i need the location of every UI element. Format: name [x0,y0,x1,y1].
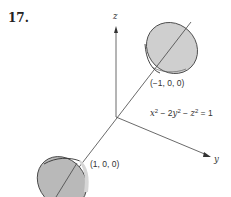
problem-number: 17. [8,11,29,25]
z-axis-arrow-icon [114,26,118,33]
y-axis-label: y [213,154,219,164]
y-axis-arrow-icon [203,152,211,157]
z-axis: z [112,11,118,117]
hyperboloid-figure: 17. z y (−1, 0, 0) (1, 0, 0) x2 − 2y2 − … [0,0,231,197]
surface-equation: x2 − 2y2 − z2 = 1 [150,108,213,118]
y-axis: y [116,117,219,164]
point-label-neg1: (−1, 0, 0) [150,78,184,88]
upper-sheet [136,12,208,84]
point-label-pos1: (1, 0, 0) [90,159,119,169]
lower-sheet [27,147,97,197]
z-axis-label: z [112,11,118,21]
